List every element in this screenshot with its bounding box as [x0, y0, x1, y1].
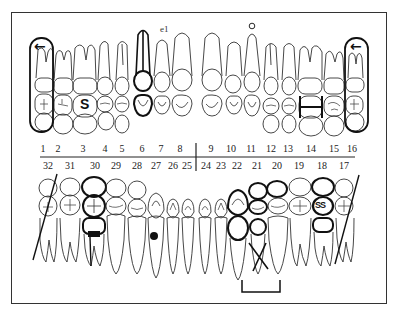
tooth-32-slash	[33, 174, 57, 260]
tooth-number-16: 16	[347, 144, 357, 154]
tooth-number-27: 27	[151, 161, 161, 171]
lower-roots	[40, 214, 354, 280]
upper-crowns	[35, 69, 364, 95]
tooth-number-31: 31	[65, 161, 75, 171]
tooth-number-20: 20	[272, 161, 282, 171]
tooth-21-x	[249, 243, 268, 271]
tooth-1-arrow-icon: ←	[34, 38, 46, 54]
tooth-number-8: 8	[178, 144, 183, 154]
tooth-18-symbol: SS	[315, 200, 325, 210]
tooth-number-32: 32	[43, 161, 53, 171]
tooth-27-dot	[150, 232, 158, 240]
lower-lingual	[39, 177, 353, 199]
tooth-number-12: 12	[266, 144, 276, 154]
tooth-16-arrow-icon: ←	[350, 38, 362, 54]
tooth-number-6: 6	[140, 144, 145, 154]
tooth-number-13: 13	[283, 144, 293, 154]
tooth-number-11: 11	[246, 144, 256, 154]
tooth-number-1: 1	[41, 144, 46, 154]
tooth-number-25: 25	[182, 161, 192, 171]
tooth-number-17: 17	[339, 161, 349, 171]
tooth-number-24: 24	[201, 161, 211, 171]
tooth-number-18: 18	[317, 161, 327, 171]
tooth-number-26: 26	[168, 161, 178, 171]
tooth-number-10: 10	[226, 144, 236, 154]
tooth-number-5: 5	[120, 144, 125, 154]
tooth-number-3: 3	[81, 144, 86, 154]
tooth-number-9: 9	[209, 144, 214, 154]
tooth-number-7: 7	[159, 144, 164, 154]
tooth-number-30: 30	[90, 161, 100, 171]
dental-chart	[0, 0, 394, 312]
upper-roots	[36, 30, 363, 80]
tooth-number-21: 21	[252, 161, 262, 171]
tooth-number-4: 4	[103, 144, 108, 154]
tooth-17-slash	[335, 175, 359, 264]
tooth-14-bracket	[300, 96, 322, 118]
tooth-30-post	[88, 231, 100, 237]
tooth-number-15: 15	[329, 144, 339, 154]
tooth-number-14: 14	[306, 144, 316, 154]
tooth-number-28: 28	[132, 161, 142, 171]
tooth-number-19: 19	[294, 161, 304, 171]
bridge-bracket	[242, 280, 280, 292]
tooth-number-29: 29	[111, 161, 121, 171]
tooth-number-23: 23	[216, 161, 226, 171]
tooth-7-label: e1	[160, 24, 169, 34]
upper-palatal	[35, 112, 364, 136]
tooth-number-2: 2	[56, 144, 61, 154]
tooth-11-circle-mark	[249, 23, 255, 29]
tooth-3-symbol: S	[80, 96, 89, 112]
tooth-number-22: 22	[232, 161, 242, 171]
